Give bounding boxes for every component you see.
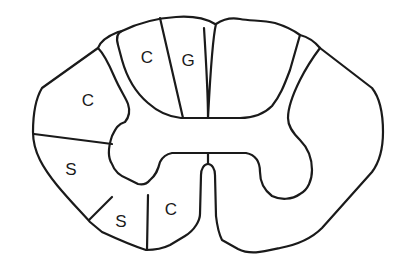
label-lateral-upper: C [82,91,94,110]
gray-matter-right-outline [208,35,320,199]
label-lateral-lower: S [65,160,76,179]
label-dorsal-lateral: C [141,48,153,67]
spinal-cord-diagram: G C C S S C [0,0,402,269]
boundary-dorsal-c-g [160,18,183,118]
label-dorsal-medial: G [181,51,194,70]
label-ventral-medial: C [165,200,177,219]
boundary-upper-c-lower-s [34,134,112,144]
label-ventrolateral: S [115,212,126,231]
boundary-ventral-s-c [147,195,148,250]
boundary-lower-s-ventral-s [89,197,112,220]
dorsal-median-septum [204,24,216,118]
spinal-cord-outer-outline [33,17,383,253]
